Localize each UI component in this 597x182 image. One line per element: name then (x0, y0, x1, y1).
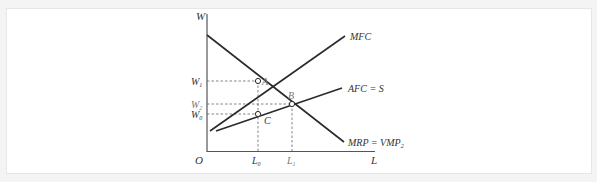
origin-label: O (195, 154, 203, 166)
point-b-marker (289, 101, 294, 106)
point-c-marker (255, 111, 260, 116)
monopsony-diagram: W L O W1 W2 W0 L0 L1 A B C MFC AFC = S M… (0, 0, 597, 182)
w1-label: W1 (191, 76, 202, 88)
point-a-label: A (261, 76, 269, 87)
point-c-label: C (264, 115, 271, 126)
point-b-label: B (288, 90, 294, 101)
afc-supply-label: AFC = S (347, 83, 384, 94)
mfc-curve (210, 36, 345, 131)
x-axis-label: L (370, 154, 377, 166)
l0-label: L0 (251, 155, 261, 167)
y-axis-label: W (196, 10, 206, 22)
point-a-marker (255, 78, 260, 83)
l1-label: L1 (286, 155, 296, 167)
mrp-label: MRP = VMP2 (347, 137, 404, 149)
mfc-label: MFC (349, 31, 371, 42)
afc-supply-curve (216, 88, 342, 131)
